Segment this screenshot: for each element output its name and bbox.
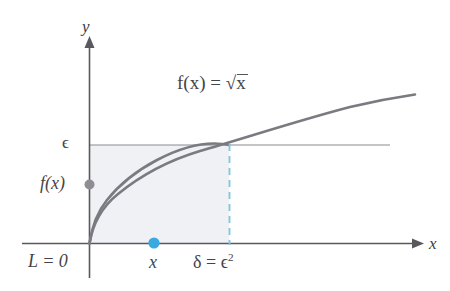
y-axis-arrowhead xyxy=(85,36,95,48)
sqrt-epsilon-delta-figure: y x f(x) = √x ϵ f(x) L = 0 x δ = ϵ2 xyxy=(0,0,450,291)
x-point-label: x xyxy=(149,253,157,271)
f-of-x-label: f(x) xyxy=(40,174,65,192)
delta-label: δ = ϵ2 xyxy=(193,252,234,271)
function-label-name: f(x) xyxy=(177,72,205,93)
sqrt-radical-icon: √ xyxy=(226,73,236,92)
function-label: f(x) = √x xyxy=(177,73,246,92)
y-axis-label: y xyxy=(82,18,90,35)
epsilon-axis-label: ϵ xyxy=(62,134,69,151)
x-axis-label: x xyxy=(429,235,437,252)
limit-value-label: L = 0 xyxy=(28,252,68,270)
function-label-radicand: x xyxy=(236,72,246,93)
delta-equals: = xyxy=(201,252,220,272)
x-point-marker xyxy=(148,237,159,248)
x-axis-arrowhead xyxy=(412,239,424,249)
function-label-equals: = xyxy=(205,72,225,93)
delta-epsilon: ϵ xyxy=(221,252,228,272)
delta-exponent: 2 xyxy=(228,251,234,263)
f-of-x-point-marker xyxy=(85,180,95,190)
